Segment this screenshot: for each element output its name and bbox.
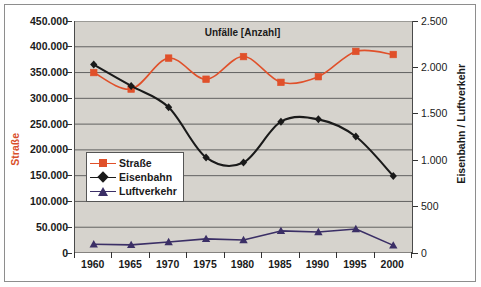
legend-label-strasse: Straße	[119, 157, 152, 169]
chart-legend: Straße Eisenbahn Luftverkehr	[86, 152, 184, 202]
y-axis-right-tick: 1.500	[421, 108, 447, 118]
y-axis-left-tick: 300.000	[6, 93, 68, 103]
chart-container: Unfälle [Anzahl] 050.000100.000150.00020…	[0, 0, 481, 287]
y-axis-left-tickmark	[66, 149, 72, 150]
legend-marker-square-icon	[90, 157, 116, 169]
x-axis-tickmark	[261, 252, 262, 258]
legend-marker-triangle-icon	[90, 185, 116, 197]
y-axis-right-tick: 0	[421, 248, 427, 258]
data-point-marker	[90, 69, 97, 76]
y-axis-left-tickmark	[66, 98, 72, 99]
x-axis-labels: 196019651970197519801985199019952000	[74, 258, 411, 274]
data-point-marker	[353, 48, 360, 55]
y-axis-left-tickmark	[66, 124, 72, 125]
x-axis-tick: 1985	[268, 258, 291, 270]
x-axis-tick: 1995	[343, 258, 366, 270]
plot-svg	[75, 21, 412, 253]
x-axis-tickmark	[374, 252, 375, 258]
data-point-marker	[315, 73, 322, 80]
y-axis-left-title: Straße	[9, 133, 21, 166]
y-axis-right-tick: 2.500	[421, 16, 447, 26]
x-axis-tickmark	[149, 252, 150, 258]
x-axis-tickmark	[411, 252, 412, 258]
y-axis-right-tick: 2.000	[421, 62, 447, 72]
plot-area	[74, 21, 413, 253]
y-axis-right-title: Eisenbahn / Luftverkehr	[455, 64, 467, 184]
y-axis-left-tickmark	[66, 201, 72, 202]
data-point-marker	[278, 79, 285, 86]
y-axis-left-tick: 0	[6, 248, 68, 258]
x-axis-tick: 1980	[231, 258, 254, 270]
y-axis-left-tick: 100.000	[6, 196, 68, 206]
data-point-marker	[165, 55, 172, 62]
legend-marker-diamond-icon	[90, 171, 116, 183]
x-axis-tickmark	[74, 252, 75, 258]
legend-item-eisenbahn: Eisenbahn	[90, 170, 177, 184]
x-axis-tick: 2000	[381, 258, 404, 270]
data-point-marker	[240, 53, 247, 60]
x-axis-tickmark	[111, 252, 112, 258]
y-axis-left-tick: 150.000	[6, 170, 68, 180]
legend-label-luftverkehr: Luftverkehr	[119, 185, 177, 197]
y-axis-left-tickmark	[66, 72, 72, 73]
data-point-marker	[203, 76, 210, 83]
legend-item-luftverkehr: Luftverkehr	[90, 184, 177, 198]
x-axis-tickmark	[224, 252, 225, 258]
y-axis-right-tick: 1.000	[421, 155, 447, 165]
x-axis-tickmark	[299, 252, 300, 258]
y-axis-left-tickmark	[66, 46, 72, 47]
x-axis-tick: 1990	[306, 258, 329, 270]
y-axis-left-tick: 400.000	[6, 41, 68, 51]
x-axis-tick: 1965	[118, 258, 141, 270]
data-point-marker	[315, 115, 322, 123]
x-axis-tickmark	[186, 252, 187, 258]
y-axis-left-tickmark	[66, 21, 72, 22]
data-point-marker	[390, 51, 397, 58]
legend-label-eisenbahn: Eisenbahn	[119, 171, 172, 183]
y-axis-left-tickmark	[66, 227, 72, 228]
data-point-marker	[90, 61, 97, 69]
x-axis-tickmark	[336, 252, 337, 258]
y-axis-left-tick: 50.000	[6, 222, 68, 232]
y-axis-left-tickmark	[66, 253, 72, 254]
x-axis-tick: 1970	[156, 258, 179, 270]
y-axis-left-tick: 250.000	[6, 119, 68, 129]
y-axis-right-spine	[412, 21, 413, 253]
legend-item-strasse: Straße	[90, 156, 177, 170]
y-axis-left-tick: 450.000	[6, 16, 68, 26]
x-axis-tick: 1960	[81, 258, 104, 270]
y-axis-left-tick: 350.000	[6, 67, 68, 77]
x-axis-tick: 1975	[193, 258, 216, 270]
y-axis-left-tickmark	[66, 175, 72, 176]
y-axis-right-tick: 500	[421, 201, 439, 211]
chart-title: Unfälle [Anzahl]	[74, 27, 411, 38]
